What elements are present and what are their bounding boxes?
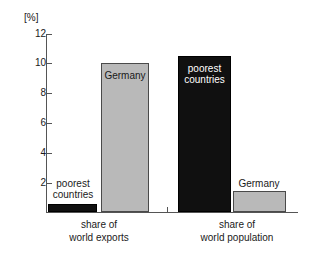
y-tick-12: 12 bbox=[0, 34, 46, 35]
y-tick-8: 8 bbox=[0, 93, 46, 94]
y-tick-label: 4 bbox=[24, 148, 46, 158]
bar-left-poorest-countries bbox=[48, 204, 97, 212]
y-tick-label: 2 bbox=[24, 178, 46, 188]
group-divider-tick bbox=[167, 207, 168, 213]
y-tick-label: 6 bbox=[24, 118, 46, 128]
bar-label-right-poorest-countries: poorest countries bbox=[179, 63, 230, 85]
bar-left-germany: Germany bbox=[101, 63, 149, 212]
bar-label-line2: countries bbox=[44, 189, 102, 200]
category-label-line1: share of bbox=[177, 218, 297, 231]
bar-label-line2: countries bbox=[179, 74, 230, 85]
bar-label-left-poorest-countries: poorest countries bbox=[44, 178, 102, 200]
bar-label-left-germany: Germany bbox=[102, 70, 148, 81]
y-tick-label: 8 bbox=[24, 88, 46, 98]
bar-label-line1: poorest bbox=[179, 63, 230, 74]
category-label-line1: share of bbox=[44, 218, 154, 231]
category-label-line2: world exports bbox=[44, 231, 154, 244]
bar-label-line1: poorest bbox=[44, 178, 102, 189]
category-label-world-population: share of world population bbox=[177, 218, 297, 244]
x-axis-line bbox=[46, 212, 298, 213]
y-tick-label: 12 bbox=[24, 29, 46, 39]
bar-right-poorest-countries: poorest countries bbox=[178, 56, 231, 212]
bar-chart: [%] 12 10 8 6 4 2 poorest countries Germ… bbox=[0, 0, 316, 257]
category-label-world-exports: share of world exports bbox=[44, 218, 154, 244]
category-label-line2: world population bbox=[177, 231, 297, 244]
y-tick-10: 10 bbox=[0, 63, 46, 64]
y-tick-4: 4 bbox=[0, 153, 46, 154]
y-tick-2: 2 bbox=[0, 183, 46, 184]
y-tick-label: 10 bbox=[24, 58, 46, 68]
y-axis-unit-label: [%] bbox=[24, 12, 38, 23]
y-tick-6: 6 bbox=[0, 123, 46, 124]
bar-label-right-germany: Germany bbox=[230, 178, 288, 189]
bar-right-germany bbox=[233, 191, 286, 212]
